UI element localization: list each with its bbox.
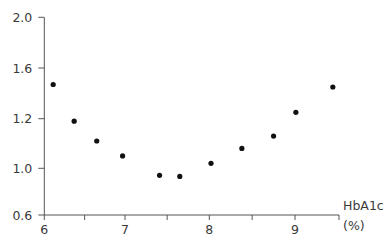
data-point (239, 146, 244, 151)
x-axis-title-line-1: HbA1c (343, 198, 384, 213)
x-tick-label: 9 (291, 222, 299, 237)
data-point (177, 174, 182, 179)
y-tick-label: 1.2 (12, 111, 32, 126)
x-axis: 6789 (40, 215, 339, 237)
data-point (72, 119, 77, 124)
y-tick-label: 2.0 (12, 10, 32, 25)
data-point (51, 82, 56, 87)
data-point (293, 110, 298, 115)
y-tick-label: 1.0 (12, 161, 32, 176)
data-point (330, 84, 335, 89)
y-tick-label: 1.6 (12, 61, 32, 76)
data-point (157, 173, 162, 178)
y-tick-label: 0.6 (12, 208, 32, 223)
data-point (120, 153, 125, 158)
y-axis: 0.61.01.21.62.0 (12, 10, 44, 223)
data-point (271, 133, 276, 138)
x-tick-label: 7 (121, 222, 129, 237)
x-tick-label: 6 (40, 222, 48, 237)
data-point (94, 138, 99, 143)
x-axis-title-line-2: (%) (343, 218, 365, 233)
data-points (51, 82, 336, 179)
x-tick-label: 8 (205, 222, 213, 237)
data-point (208, 161, 213, 166)
scatter-chart: 0.61.01.21.62.0 6789 HbA1c (%) (0, 0, 391, 252)
